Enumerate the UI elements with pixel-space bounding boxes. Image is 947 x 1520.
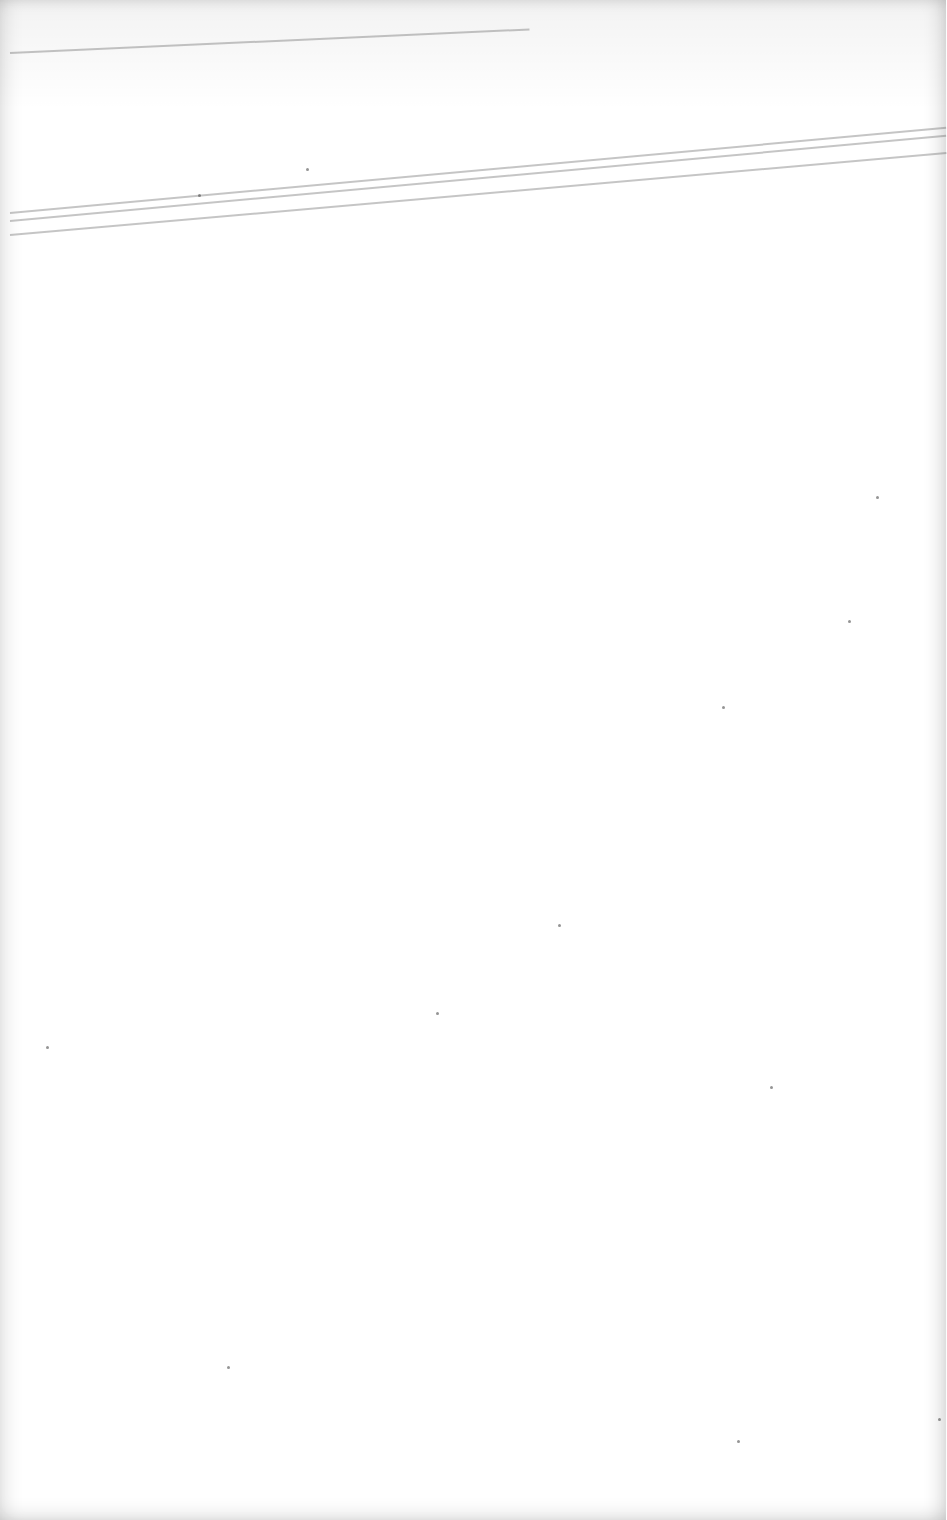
dust-speck — [558, 924, 561, 927]
dust-speck — [436, 1012, 439, 1015]
top-shadow — [0, 0, 946, 110]
fold-streak — [10, 135, 946, 222]
dust-speck — [938, 1418, 941, 1421]
dust-speck — [227, 1366, 230, 1369]
dust-speck — [737, 1440, 740, 1443]
dust-speck — [848, 620, 851, 623]
fold-streak — [10, 127, 946, 214]
dust-speck — [198, 194, 201, 197]
fold-streak — [10, 152, 947, 236]
dust-speck — [306, 168, 309, 171]
dust-speck — [876, 496, 879, 499]
dust-speck — [722, 706, 725, 709]
dust-speck — [770, 1086, 773, 1089]
dust-speck — [46, 1046, 49, 1049]
